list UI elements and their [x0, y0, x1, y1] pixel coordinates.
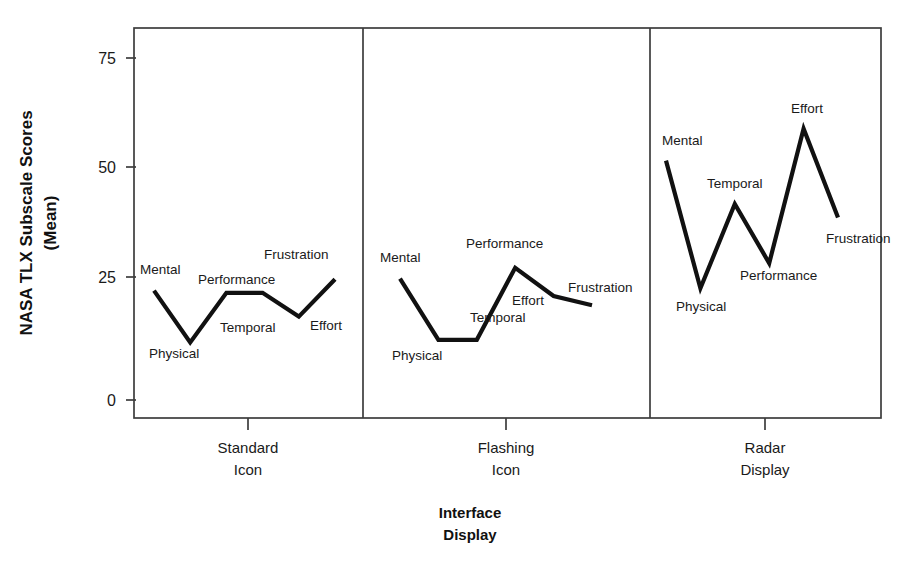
series-line-flashing-icon — [400, 268, 592, 340]
point-label-p3-effort: Effort — [791, 101, 823, 116]
point-label-p3-frustration: Frustration — [826, 231, 891, 246]
point-label-p2-temporal: Temporal — [470, 310, 526, 325]
ytick-label-75: 75 — [98, 50, 116, 67]
x-axis-title-line1: Interface — [439, 504, 502, 521]
panel-label-radar-display-line2: Display — [740, 461, 790, 478]
point-label-p3-physical: Physical — [676, 299, 726, 314]
series-line-radar-display — [666, 129, 838, 289]
panel-label-standard-icon-line2: Icon — [234, 461, 262, 478]
chart-container: 75 50 25 0 NASA TLX Subscale Scores (Mea… — [0, 0, 909, 576]
point-label-p1-physical: Physical — [149, 346, 199, 361]
point-label-p3-mental: Mental — [662, 133, 703, 148]
nasa-tlx-line-chart: 75 50 25 0 NASA TLX Subscale Scores (Mea… — [0, 0, 909, 576]
point-label-p1-effort: Effort — [310, 318, 342, 333]
panel-label-radar-display-line1: Radar — [745, 439, 786, 456]
point-label-p2-mental: Mental — [380, 250, 421, 265]
panel-label-flashing-icon-line1: Flashing — [478, 439, 535, 456]
point-label-p2-frustration: Frustration — [568, 280, 633, 295]
point-label-p1-frustration: Frustration — [264, 247, 329, 262]
plot-frame — [134, 28, 881, 418]
ytick-label-0: 0 — [107, 392, 116, 409]
point-label-p2-performance: Performance — [466, 236, 543, 251]
point-label-p3-performance: Performance — [740, 268, 817, 283]
point-label-p3-temporal: Temporal — [707, 176, 763, 191]
point-label-p2-physical: Physical — [392, 348, 442, 363]
point-label-p1-temporal: Temporal — [220, 320, 276, 335]
point-label-p2-effort: Effort — [512, 293, 544, 308]
point-label-p1-mental: Mental — [140, 262, 181, 277]
ytick-label-25: 25 — [98, 269, 116, 286]
y-axis-title: NASA TLX Subscale Scores — [17, 110, 36, 335]
panel-label-standard-icon-line1: Standard — [218, 439, 279, 456]
ytick-label-50: 50 — [98, 159, 116, 176]
x-axis-title-line2: Display — [443, 526, 497, 543]
point-label-p1-performance: Performance — [198, 272, 275, 287]
panel-label-flashing-icon-line2: Icon — [492, 461, 520, 478]
y-axis-title-line2: (Mean) — [41, 196, 60, 251]
